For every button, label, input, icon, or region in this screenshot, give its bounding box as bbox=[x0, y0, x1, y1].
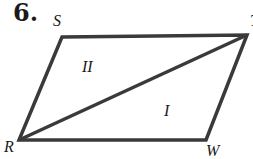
region-label-ii: II bbox=[82, 58, 93, 76]
region-label-i: I bbox=[164, 102, 169, 120]
vertex-label-t: T bbox=[250, 12, 253, 30]
vertex-label-w: W bbox=[206, 142, 219, 159]
vertex-label-r: R bbox=[4, 138, 14, 156]
vertex-label-s: S bbox=[53, 12, 61, 30]
parallelogram-diagram bbox=[0, 0, 253, 159]
